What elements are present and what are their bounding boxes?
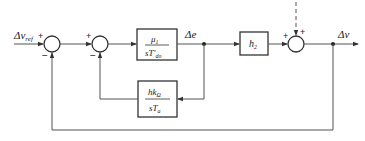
sum1-plus-sign: + — [38, 31, 43, 41]
sum3-top-plus-sign: + — [300, 27, 305, 37]
sum3-left-plus-sign: + — [283, 31, 288, 41]
inner-feedback-path — [178, 44, 204, 99]
sum2-plus-sign: + — [86, 31, 91, 41]
delta-e-label: Δe — [184, 28, 196, 40]
block-diagram: Δvref + − + − μ1 sT'do Δe h2 + + Δv hkΩ … — [0, 0, 365, 141]
output-label: Δv — [337, 28, 349, 40]
summing-junction-3 — [288, 36, 304, 52]
inner-feedback-return — [100, 53, 138, 99]
sum1-minus-sign: − — [42, 50, 48, 61]
sum2-minus-sign: − — [90, 50, 96, 61]
input-label: Δvref — [13, 29, 34, 43]
